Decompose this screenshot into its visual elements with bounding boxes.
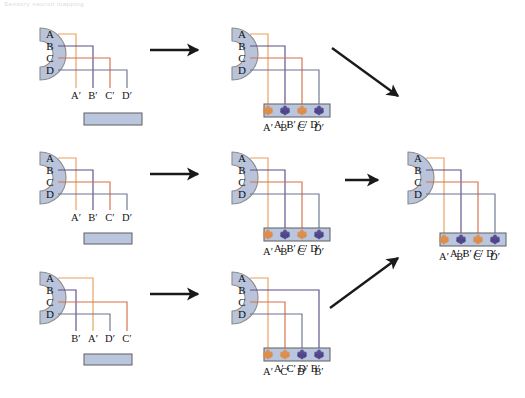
target-label: B′ [88, 212, 97, 223]
dot [446, 239, 449, 242]
dot [480, 239, 483, 242]
dot [459, 241, 462, 244]
panel-middle-left-unmapped: ABCDA′B′C′D′ [40, 152, 132, 244]
dot [280, 110, 283, 113]
dot [266, 236, 269, 239]
dot [300, 353, 304, 357]
dot [266, 353, 270, 357]
dot [297, 234, 300, 237]
axon-path-C [58, 182, 110, 210]
dot [287, 110, 290, 113]
receptor-label-D: D [238, 64, 246, 76]
dot [300, 356, 303, 359]
dot [473, 239, 476, 242]
receptor-label-C: C [414, 176, 421, 188]
dot [321, 110, 324, 113]
dot [283, 233, 287, 237]
dot [463, 239, 466, 242]
dot [283, 109, 287, 113]
arrow-row1-to-final-down-right [332, 48, 398, 96]
receptor-label-C: C [238, 52, 245, 64]
dot [317, 353, 321, 357]
dot [280, 354, 283, 357]
axon-path-D [250, 314, 302, 352]
dot [283, 353, 287, 357]
dot [476, 241, 479, 244]
dot [442, 238, 446, 242]
panel-top-middle-mapped: ABCDA′B′C′D′A′ B′ C′ D′ [232, 28, 330, 133]
receptor-label-D: D [414, 188, 422, 200]
receptor-label-A: A [46, 28, 54, 40]
receptor-label-A: A [238, 152, 246, 164]
target-label: C′ [105, 90, 114, 101]
dot [317, 236, 320, 239]
target-label: A′ [71, 212, 81, 223]
dot [476, 238, 480, 242]
receptor-label-C: C [238, 176, 245, 188]
panel-bottom-left-unmapped-scrambled: ABCDB′A′D′C′ [40, 272, 132, 365]
dot [304, 110, 307, 113]
dot [280, 234, 283, 237]
receptor-label-D: D [46, 308, 54, 320]
receptor-label-B: B [414, 164, 421, 176]
axon-path-C [426, 182, 478, 237]
receptor-label-B: B [46, 40, 53, 52]
target-label: B′ [88, 90, 97, 101]
diagram-canvas: ABCDA′B′C′D′ABCDA′B′C′D′A′ B′ C′ D′ABCDA… [0, 0, 525, 398]
dot [297, 110, 300, 113]
dot [283, 236, 286, 239]
receptor-label-B: B [46, 164, 53, 176]
dot [300, 109, 304, 113]
target-label: A′ [263, 366, 273, 377]
target-label: D′ [122, 90, 132, 101]
dot [283, 112, 286, 115]
dot [314, 234, 317, 237]
dot [439, 239, 442, 242]
receptor-label-C: C [46, 296, 53, 308]
receptor-label-A: A [238, 28, 246, 40]
dot [321, 354, 324, 357]
axon-path-C [250, 182, 302, 232]
dot [266, 112, 269, 115]
tectum-bar [84, 113, 142, 125]
dot [270, 354, 273, 357]
dot [266, 356, 269, 359]
panel-top-left-unmapped: ABCDA′B′C′D′ [40, 28, 142, 125]
dot [490, 239, 493, 242]
dot [287, 234, 290, 237]
panel-middle-middle-mapped: ABCDA′B′C′D′A′ B′ C′ D′ [232, 152, 330, 257]
dot [297, 354, 300, 357]
dot [283, 356, 286, 359]
dot [314, 354, 317, 357]
tectum-bar [84, 354, 132, 365]
dot [266, 233, 270, 237]
receptor-label-B: B [238, 40, 245, 52]
axon-path-C [58, 58, 110, 88]
target-label: B′ [71, 333, 80, 344]
panel-bottom-middle-mapped-scrambled: ABCDA′C′D′B′A′ C′ D′ B′ [232, 272, 330, 377]
dot [263, 354, 266, 357]
diagram-svg: ABCDA′B′C′D′ABCDA′B′C′D′A′ B′ C′ D′ABCDA… [0, 0, 525, 398]
tectum-bar [84, 233, 132, 244]
dot [456, 239, 459, 242]
target-label: C′ [105, 212, 114, 223]
target-label: A′ [71, 90, 81, 101]
tectum-bar-label: A′ C′ D′ B′ [274, 363, 320, 374]
dot [317, 112, 320, 115]
dot [300, 233, 304, 237]
receptor-label-C: C [46, 52, 53, 64]
dot [304, 234, 307, 237]
target-label: A′ [263, 122, 273, 133]
dot [263, 110, 266, 113]
dot [287, 354, 290, 357]
dot [317, 109, 321, 113]
dot [317, 233, 321, 237]
tectum-bar-label: A′ B′ C′ D′ [450, 248, 496, 259]
receptor-label-D: D [238, 188, 246, 200]
receptor-label-B: B [46, 284, 53, 296]
receptor-label-C: C [238, 296, 245, 308]
target-label: D′ [122, 212, 132, 223]
receptor-label-D: D [46, 64, 54, 76]
dot [270, 110, 273, 113]
figure-top-caption: Sensory neuron mapping [4, 0, 124, 9]
